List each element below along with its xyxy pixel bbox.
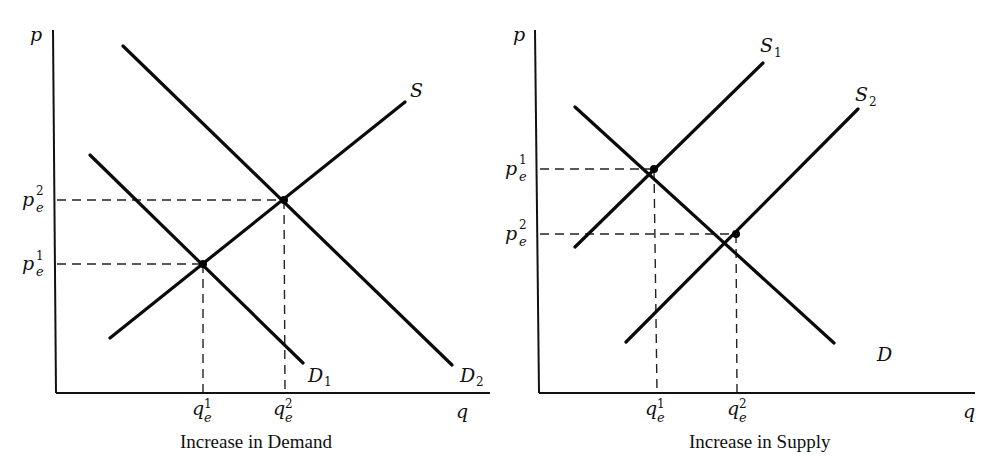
right-p-axis-label: p (513, 23, 525, 45)
svg-text:e: e (657, 410, 665, 425)
right-equilibrium-2 (732, 230, 740, 238)
right-label-qe2: q 2 e (727, 397, 747, 425)
right-label-S2: S 2 (855, 83, 877, 109)
left-supply-curve-S (110, 102, 405, 338)
svg-text:p: p (22, 252, 34, 274)
svg-text:1: 1 (204, 397, 212, 411)
svg-text:D: D (307, 364, 323, 386)
right-supply-curve-S1 (575, 63, 763, 247)
right-qe2-guide (736, 234, 737, 392)
svg-text:p: p (505, 157, 517, 179)
left-label-qe2: q 2 e (273, 397, 293, 425)
left-p-axis-label: p (30, 23, 42, 45)
svg-text:D: D (459, 364, 475, 386)
svg-text:e: e (36, 264, 44, 279)
svg-text:e: e (519, 234, 527, 249)
left-equilibrium-1 (199, 260, 207, 268)
svg-text:e: e (285, 410, 293, 425)
svg-text:2: 2 (869, 95, 877, 109)
svg-text:2: 2 (519, 218, 527, 232)
svg-text:1: 1 (519, 153, 527, 167)
right-equilibrium-1 (650, 165, 658, 173)
svg-text:S: S (855, 83, 868, 105)
supply-demand-diagrams: p q S D 1 D 2 p 2 e p 1 e (0, 0, 993, 475)
right-label-D: D (876, 343, 892, 365)
left-equilibrium-2 (280, 196, 288, 204)
right-q-axis-label: q (963, 400, 975, 422)
right-p-axis (535, 30, 539, 393)
svg-text:1: 1 (324, 375, 332, 389)
svg-text:q: q (727, 397, 739, 419)
svg-text:q: q (192, 397, 204, 419)
svg-text:S: S (760, 34, 773, 56)
left-label-pe1: p 1 e (22, 249, 44, 279)
right-qe1-guide (654, 169, 657, 392)
left-p-axis (53, 30, 56, 393)
svg-text:p: p (505, 222, 517, 244)
svg-text:1: 1 (774, 46, 782, 60)
svg-text:2: 2 (285, 397, 293, 411)
svg-text:q: q (273, 397, 285, 419)
left-label-D1: D 1 (307, 364, 332, 389)
left-qe2-guide (284, 200, 285, 392)
right-label-S1: S 1 (760, 34, 782, 60)
svg-text:q: q (645, 397, 657, 419)
right-label-pe2: p 2 e (505, 218, 527, 249)
left-label-D2: D 2 (459, 364, 484, 389)
right-supply-curve-S2 (626, 109, 858, 342)
svg-text:1: 1 (657, 397, 665, 411)
right-label-qe1: q 1 e (645, 397, 665, 425)
right-label-pe1: p 1 e (505, 153, 527, 184)
left-q-axis-label: q (456, 400, 468, 422)
svg-text:1: 1 (36, 249, 44, 263)
svg-text:e: e (36, 200, 44, 215)
left-demand-curve-D2 (123, 46, 452, 365)
left-demand-curve-D1 (90, 155, 303, 363)
svg-text:2: 2 (476, 375, 484, 389)
panel-increase-in-demand: p q S D 1 D 2 p 2 e p 1 e (22, 23, 490, 452)
svg-text:e: e (204, 410, 212, 425)
left-caption: Increase in Demand (180, 431, 332, 452)
left-label-S: S (410, 79, 423, 101)
right-caption: Increase in Supply (689, 431, 831, 452)
panel-increase-in-supply: p q S 1 S 2 D p 1 e p 2 e (505, 23, 975, 452)
left-label-qe1: q 1 e (192, 397, 212, 425)
right-demand-curve-D (575, 107, 834, 343)
svg-text:p: p (22, 188, 34, 210)
svg-text:e: e (739, 410, 747, 425)
svg-text:e: e (519, 169, 527, 184)
svg-text:2: 2 (36, 184, 44, 198)
left-label-pe2: p 2 e (22, 184, 44, 215)
svg-text:2: 2 (739, 397, 747, 411)
